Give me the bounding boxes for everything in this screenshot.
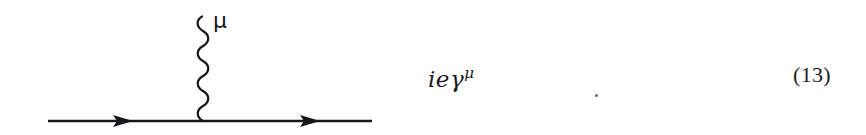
amplitude-expression-base: ieγ xyxy=(428,66,464,92)
photon-index-label: μ xyxy=(213,8,227,34)
amplitude-expression-superscript: μ xyxy=(464,64,474,82)
stray-ink-dot xyxy=(595,94,598,97)
figure-page: μ ieγμ (13) xyxy=(0,0,866,135)
amplitude-expression: ieγμ xyxy=(428,60,474,93)
equation-number: (13) xyxy=(793,62,831,88)
photon-wavy-line xyxy=(198,17,209,122)
